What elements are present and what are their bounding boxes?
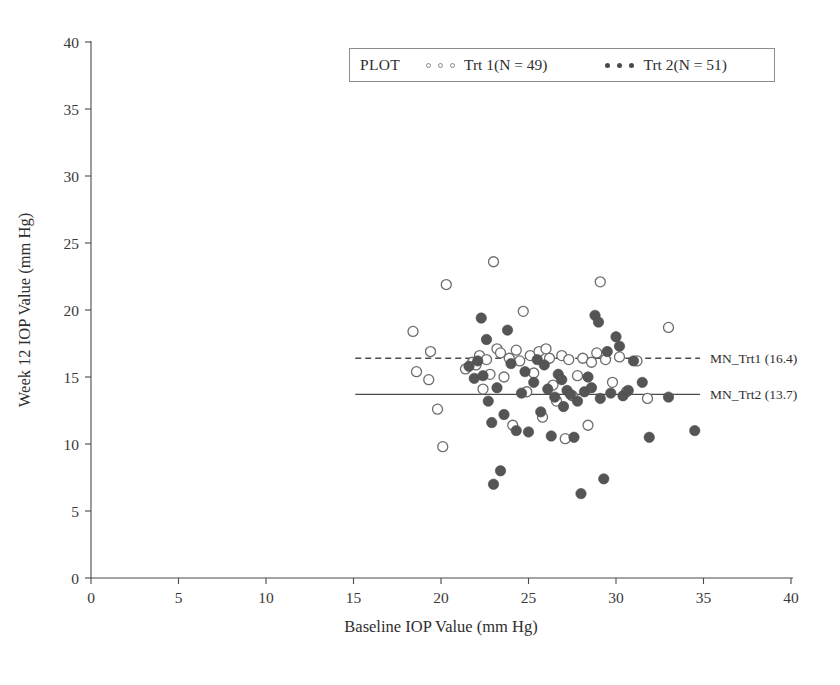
data-point-series-2	[546, 431, 556, 441]
x-tick-label: 30	[608, 589, 624, 606]
data-point-series-1	[608, 377, 618, 387]
data-point-series-2	[529, 377, 539, 387]
data-point-series-1	[583, 420, 593, 430]
data-point-series-1	[426, 347, 436, 357]
reference-line-label-mn-trt2: MN_Trt2 (13.7)	[710, 387, 797, 402]
data-point-series-2	[602, 346, 612, 356]
data-point-series-1	[424, 375, 434, 385]
reference-line-label-mn-trt1: MN_Trt1 (16.4)	[710, 351, 797, 366]
data-point-series-2	[637, 377, 647, 387]
x-tick-label: 20	[433, 589, 449, 606]
x-tick-label: 10	[258, 589, 274, 606]
y-tick-label: 20	[64, 302, 80, 319]
data-point-series-1	[433, 404, 443, 414]
data-point-series-2	[614, 341, 624, 351]
data-point-series-2	[550, 392, 560, 402]
data-point-series-2	[593, 317, 603, 327]
data-point-series-1	[412, 367, 422, 377]
data-point-series-1	[592, 348, 602, 358]
plot-canvas: 05101520253035400510152025303540 MN_Trt1…	[0, 0, 840, 685]
data-point-series-2	[569, 432, 579, 442]
data-point-series-1	[438, 442, 448, 452]
data-point-series-2	[690, 425, 700, 435]
data-point-series-2	[511, 425, 521, 435]
legend-label-trt2: Trt 2(N = 51)	[643, 56, 727, 74]
data-point-series-1	[541, 344, 551, 354]
data-point-series-2	[576, 488, 586, 498]
y-tick-label: 30	[64, 168, 80, 185]
data-point-series-2	[516, 388, 526, 398]
scatter-plot-figure: 05101520253035400510152025303540 MN_Trt1…	[0, 0, 840, 685]
axes-group: 05101520253035400510152025303540	[64, 34, 800, 607]
data-point-series-1	[478, 384, 488, 394]
data-point-series-2	[644, 432, 654, 442]
data-point-series-2	[536, 407, 546, 417]
data-point-series-2	[606, 388, 616, 398]
data-point-series-2	[520, 366, 530, 376]
data-point-series-2	[586, 383, 596, 393]
x-tick-label: 5	[175, 589, 183, 606]
data-points-group	[408, 257, 700, 499]
y-tick-label: 0	[71, 570, 79, 587]
data-point-series-2	[628, 356, 638, 366]
data-point-series-2	[583, 372, 593, 382]
data-point-series-1	[564, 355, 574, 365]
x-tick-label: 35	[696, 589, 712, 606]
data-point-series-2	[473, 356, 483, 366]
data-point-series-1	[615, 352, 625, 362]
data-point-series-1	[489, 257, 499, 267]
data-point-series-2	[558, 401, 568, 411]
data-point-series-2	[487, 417, 497, 427]
data-point-series-2	[539, 360, 549, 370]
data-point-series-1	[595, 277, 605, 287]
data-point-series-1	[643, 393, 653, 403]
legend-title: PLOT	[360, 56, 400, 74]
filled-circle-icon	[605, 63, 634, 68]
data-point-series-2	[495, 466, 505, 476]
data-point-series-2	[478, 370, 488, 380]
data-point-series-1	[499, 372, 509, 382]
legend-label-trt1: Trt 1(N = 49)	[464, 56, 548, 74]
data-point-series-1	[408, 326, 418, 336]
x-tick-label: 25	[521, 589, 537, 606]
x-axis-title: Baseline IOP Value (mm Hg)	[344, 617, 537, 636]
y-tick-label: 35	[64, 101, 80, 118]
data-point-series-2	[492, 383, 502, 393]
y-axis-title: Week 12 IOP Value (mm Hg)	[15, 213, 34, 407]
data-point-series-2	[481, 334, 491, 344]
data-point-series-1	[518, 306, 528, 316]
open-circle-icon	[426, 63, 455, 68]
y-tick-label: 15	[64, 369, 80, 386]
data-point-series-2	[543, 384, 553, 394]
legend: PLOT Trt 1(N = 49) Trt 2(N = 51)	[349, 48, 775, 82]
data-point-series-1	[664, 322, 674, 332]
legend-entry-trt1: Trt 1(N = 49)	[426, 56, 548, 74]
y-tick-label: 25	[64, 235, 80, 252]
x-tick-label: 40	[783, 589, 799, 606]
data-point-series-2	[595, 393, 605, 403]
data-point-series-2	[557, 374, 567, 384]
data-point-series-2	[506, 358, 516, 368]
data-point-series-1	[587, 357, 597, 367]
data-point-series-2	[611, 332, 621, 342]
data-point-series-2	[502, 325, 512, 335]
data-point-series-2	[523, 427, 533, 437]
data-point-series-2	[476, 313, 486, 323]
y-tick-label: 40	[64, 34, 80, 51]
y-tick-label: 5	[71, 503, 79, 520]
data-point-series-2	[488, 479, 498, 489]
legend-entry-trt2: Trt 2(N = 51)	[605, 56, 727, 74]
axis-titles-group: Baseline IOP Value (mm Hg)Week 12 IOP Va…	[15, 213, 538, 636]
data-point-series-2	[499, 409, 509, 419]
data-point-series-1	[441, 280, 451, 290]
y-tick-label: 10	[64, 436, 80, 453]
data-point-series-1	[573, 371, 583, 381]
x-tick-label: 0	[87, 589, 95, 606]
data-point-series-2	[599, 474, 609, 484]
data-point-series-1	[511, 345, 521, 355]
data-point-series-2	[483, 396, 493, 406]
data-point-series-2	[663, 392, 673, 402]
x-tick-label: 15	[346, 589, 362, 606]
data-point-series-2	[623, 385, 633, 395]
data-point-series-2	[572, 396, 582, 406]
